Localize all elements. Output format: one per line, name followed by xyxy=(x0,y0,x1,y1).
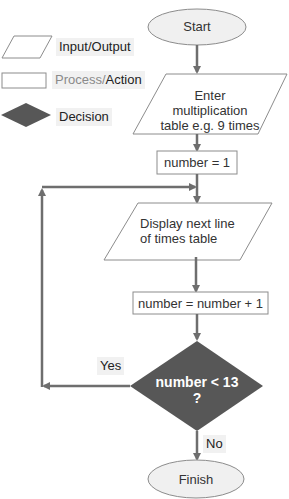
legend-process-label-part2: Action xyxy=(106,72,142,87)
legend-process-label-part1: Process/ xyxy=(55,72,106,87)
legend-decision-label: Decision xyxy=(56,108,112,126)
legend-io-label: Input/Output xyxy=(56,38,134,56)
legend-process-label: Process/Action xyxy=(52,71,145,89)
init-label: number = 1 xyxy=(157,155,237,170)
legend-io-shape xyxy=(2,36,52,58)
decision-label-line2: ? xyxy=(140,390,254,406)
decision-label: number < 13 ? xyxy=(140,374,254,406)
display-label: Display next line of times table xyxy=(140,216,244,246)
no-edge-label: No xyxy=(203,435,226,453)
legend-decision-shape xyxy=(1,103,51,127)
increment-label: number = number + 1 xyxy=(133,296,268,311)
legend-process-shape xyxy=(2,73,46,88)
finish-label: Finish xyxy=(148,472,244,487)
decision-label-line1: number < 13 xyxy=(140,374,254,390)
start-label: Start xyxy=(148,19,246,34)
input-label: Enter multiplication table e.g. 9 times xyxy=(160,88,260,133)
yes-edge-label: Yes xyxy=(97,357,124,375)
